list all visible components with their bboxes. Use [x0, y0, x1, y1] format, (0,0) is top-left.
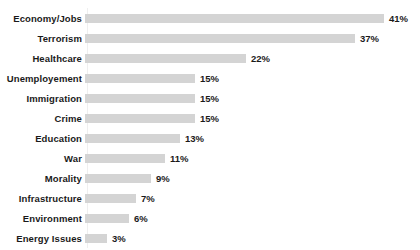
category-label: Energy Issues [0, 233, 85, 244]
bar-segment [85, 154, 165, 163]
table-row: Crime 15% [0, 108, 420, 128]
category-label: Economy/Jobs [0, 13, 85, 24]
bar-value-label: 7% [141, 193, 155, 204]
bar-value-label: 3% [112, 233, 126, 244]
category-label: Crime [0, 113, 85, 124]
bar-track: 37% [85, 28, 420, 48]
bar-track: 7% [85, 188, 420, 208]
table-row: Unemployement 15% [0, 68, 420, 88]
bar-track: 13% [85, 128, 420, 148]
category-label: War [0, 153, 85, 164]
bar-segment [85, 94, 195, 103]
category-label: Terrorism [0, 33, 85, 44]
bar-value-label: 15% [200, 93, 219, 104]
category-label: Education [0, 133, 85, 144]
bar-value-label: 15% [200, 113, 219, 124]
bar-value-label: 6% [134, 213, 148, 224]
table-row: Infrastructure 7% [0, 188, 420, 208]
category-label: Infrastructure [0, 193, 85, 204]
category-label: Unemployement [0, 73, 85, 84]
category-label: Environment [0, 213, 85, 224]
bar-segment [85, 114, 195, 123]
bar-track: 15% [85, 68, 420, 88]
table-row: Healthcare 22% [0, 48, 420, 68]
category-label: Immigration [0, 93, 85, 104]
table-row: Terrorism 37% [0, 28, 420, 48]
bar-segment [85, 54, 246, 63]
bar-value-label: 9% [156, 173, 170, 184]
category-label: Morality [0, 173, 85, 184]
bar-segment [85, 234, 107, 243]
bar-track: 11% [85, 148, 420, 168]
table-row: Morality 9% [0, 168, 420, 188]
category-label: Healthcare [0, 53, 85, 64]
horizontal-bar-chart: Economy/Jobs 41% Terrorism 37% Healthcar… [0, 0, 420, 250]
bar-track: 3% [85, 228, 420, 248]
bar-value-label: 15% [200, 73, 219, 84]
table-row: Economy/Jobs 41% [0, 8, 420, 28]
table-row: Immigration 15% [0, 88, 420, 108]
bar-track: 6% [85, 208, 420, 228]
table-row: Environment 6% [0, 208, 420, 228]
bar-value-label: 13% [185, 133, 204, 144]
bar-segment [85, 214, 129, 223]
bar-track: 15% [85, 88, 420, 108]
bar-segment [85, 34, 355, 43]
bar-track: 15% [85, 108, 420, 128]
table-row: War 11% [0, 148, 420, 168]
bar-track: 22% [85, 48, 420, 68]
bar-value-label: 22% [251, 53, 270, 64]
bar-segment [85, 14, 384, 23]
table-row: Energy Issues 3% [0, 228, 420, 248]
bar-segment [85, 134, 180, 143]
bar-segment [85, 194, 136, 203]
bar-value-label: 41% [389, 13, 408, 24]
bar-track: 41% [85, 8, 420, 28]
bar-track: 9% [85, 168, 420, 188]
bar-rows-container: Economy/Jobs 41% Terrorism 37% Healthcar… [0, 8, 420, 248]
bar-value-label: 11% [170, 153, 189, 164]
table-row: Education 13% [0, 128, 420, 148]
bar-segment [85, 174, 151, 183]
bar-value-label: 37% [360, 33, 379, 44]
bar-segment [85, 74, 195, 83]
